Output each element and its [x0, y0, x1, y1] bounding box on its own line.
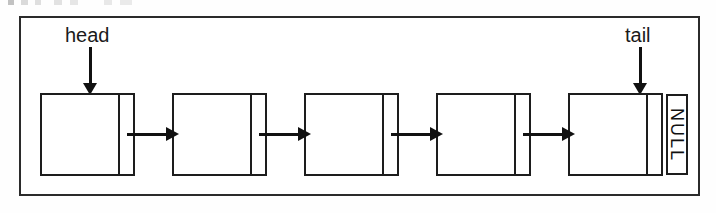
scanned-figure-page: head tail [0, 0, 716, 213]
node-data-cell [438, 95, 516, 174]
next-pointer-arrow [391, 127, 443, 141]
next-pointer-arrow [259, 127, 311, 141]
node-data-cell [42, 95, 120, 174]
pointer-label-tail: tail [625, 25, 651, 45]
pointer-label-head: head [65, 25, 110, 45]
null-label: NULL [668, 107, 686, 161]
next-pointer-arrow [523, 127, 575, 141]
list-node [568, 93, 663, 176]
tail-pointer-arrow [633, 47, 647, 95]
null-terminator-cell: NULL [666, 94, 688, 175]
next-pointer-arrow [127, 127, 179, 141]
node-data-cell [570, 95, 648, 174]
cropped-text-remnant [8, 0, 368, 5]
list-node [304, 93, 399, 176]
node-data-cell [174, 95, 252, 174]
head-pointer-arrow [83, 47, 97, 95]
list-node [172, 93, 267, 176]
node-data-cell [306, 95, 384, 174]
figure-frame-border: head tail [19, 16, 700, 196]
node-pointer-cell [648, 95, 661, 174]
list-node [40, 93, 135, 176]
list-node [436, 93, 531, 176]
